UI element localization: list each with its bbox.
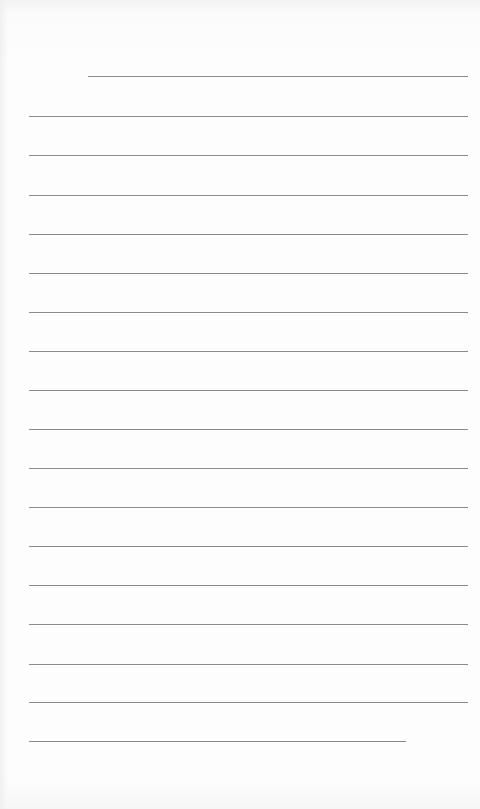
ruled-line: [29, 664, 468, 665]
ruled-line: [29, 546, 468, 547]
ruled-line: [29, 468, 468, 469]
ruled-line: [29, 351, 468, 352]
ruled-line: [29, 234, 468, 235]
ruled-line: [88, 76, 468, 77]
ruled-line: [29, 390, 468, 391]
ruled-line: [29, 429, 468, 430]
ruled-line: [29, 155, 468, 156]
ruled-line: [29, 116, 468, 117]
ruled-line: [29, 624, 468, 625]
ruled-line: [29, 273, 468, 274]
ruled-line: [29, 702, 468, 703]
ruled-line: [29, 312, 468, 313]
ruled-line: [29, 585, 468, 586]
lined-paper-sheet: [0, 0, 480, 809]
ruled-line: [29, 741, 406, 742]
paper-edge-shadow: [0, 0, 8, 809]
ruled-line: [29, 507, 468, 508]
ruled-line: [29, 195, 468, 196]
